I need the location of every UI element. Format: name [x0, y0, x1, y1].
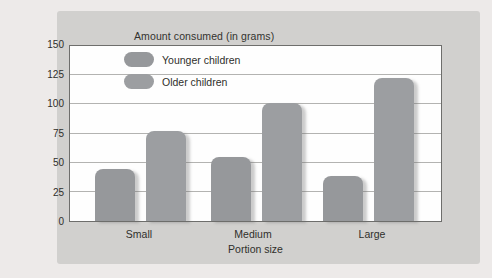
y-tick-label-0: 0	[18, 215, 64, 228]
bar-older-small	[146, 131, 186, 221]
chart-legend: Younger children Older children	[124, 52, 240, 96]
legend-item-older-children: Older children	[124, 74, 240, 89]
legend-swatch-younger-children	[124, 52, 154, 67]
bar-older-large	[374, 78, 414, 222]
x-axis-labels: SmallMediumLarge	[0, 228, 492, 242]
y-tick-label-50: 50	[18, 156, 64, 169]
category-label-small: Small	[94, 228, 184, 240]
bar-younger-small	[95, 169, 135, 222]
y-tick-label-150: 150	[18, 38, 64, 51]
y-tick-label-125: 125	[18, 68, 64, 81]
category-label-medium: Medium	[208, 228, 298, 240]
category-label-large: Large	[327, 228, 417, 240]
legend-swatch-older-children	[124, 74, 154, 89]
chart-title: Amount consumed (in grams)	[134, 30, 274, 42]
chart-page: Amount consumed (in grams) Younger child…	[0, 0, 492, 278]
y-tick-label-100: 100	[18, 97, 64, 110]
x-axis-title: Portion size	[69, 243, 442, 255]
legend-label-older-children: Older children	[162, 76, 227, 88]
bar-younger-medium	[211, 157, 251, 221]
bar-older-medium	[262, 103, 302, 221]
legend-item-younger-children: Younger children	[124, 52, 240, 67]
y-tick-label-25: 25	[18, 186, 64, 199]
y-tick-label-75: 75	[18, 127, 64, 140]
legend-label-younger-children: Younger children	[162, 54, 240, 66]
plot-area: Younger children Older children	[69, 45, 442, 222]
bar-younger-large	[323, 176, 363, 222]
